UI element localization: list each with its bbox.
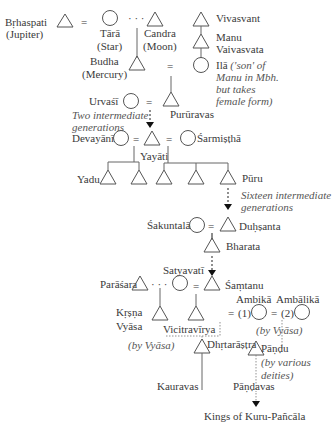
svg-text:Pūru: Pūru bbox=[242, 172, 263, 184]
svg-text:Śakuntalā: Śakuntalā bbox=[147, 219, 190, 231]
arrow-down-icon bbox=[146, 122, 154, 128]
male-triangle-icon bbox=[188, 306, 204, 320]
svg-text:(Star): (Star) bbox=[97, 40, 122, 53]
arrow-down-icon bbox=[224, 204, 232, 210]
parasara-node: Parāśara bbox=[100, 276, 148, 290]
male-triangle-icon bbox=[188, 170, 204, 184]
kauravas-label: Kauravas bbox=[157, 380, 199, 392]
svg-text:(Moon): (Moon) bbox=[143, 40, 177, 53]
female-circle-icon bbox=[295, 305, 310, 320]
tara-node: Tārā (Star) bbox=[97, 11, 122, 54]
annotation: Sixteen intermediate bbox=[241, 189, 331, 201]
krsna-vyasa-node: Kṛṣṇa Vyāsa bbox=[116, 306, 168, 332]
svg-text:Candra: Candra bbox=[144, 27, 176, 39]
marriage-sign: = bbox=[133, 133, 139, 145]
puru-node: Pūru bbox=[220, 170, 263, 184]
svg-text:Manu in Mbh.: Manu in Mbh. bbox=[215, 71, 279, 83]
male-triangle-icon bbox=[220, 217, 236, 231]
male-triangle-icon bbox=[163, 92, 179, 106]
svg-text:Pāṇḍu: Pāṇḍu bbox=[261, 342, 289, 355]
marriage-sign: = bbox=[167, 60, 173, 72]
pururavas-node: Purūravas bbox=[163, 92, 214, 120]
marriage-sign: = bbox=[193, 280, 199, 292]
kings-label: Kings of Kuru-Pañcāla bbox=[204, 410, 306, 422]
marriage-sign: = bbox=[228, 307, 234, 319]
svg-text:Ambikā: Ambikā bbox=[236, 293, 272, 305]
male-triangle-icon bbox=[147, 12, 163, 26]
svg-text:Vivasvant: Vivasvant bbox=[216, 12, 260, 24]
yadu-node: Yadu bbox=[77, 170, 116, 185]
male-triangle-icon bbox=[193, 34, 209, 48]
brhaspati-node: Bṛhaspati (Jupiter) bbox=[5, 14, 73, 41]
svg-text:female form): female form) bbox=[216, 95, 273, 108]
marriage-sign: = bbox=[271, 307, 277, 319]
annotation: generations bbox=[241, 201, 293, 213]
female-circle-icon bbox=[190, 218, 205, 233]
female-circle-icon bbox=[194, 58, 209, 73]
genealogy-diagram: Bṛhaspati (Jupiter) = Tārā (Star) · · · … bbox=[0, 0, 336, 428]
santanu-node: Śaṃtanu bbox=[204, 276, 264, 292]
sarmistha-node: Śarmiṣṭhā bbox=[181, 131, 242, 146]
svg-text:Dhṛtarāṣṭra: Dhṛtarāṣṭra bbox=[207, 338, 257, 351]
male-triangle-icon bbox=[100, 170, 116, 184]
svg-text:Yadu: Yadu bbox=[77, 173, 100, 185]
budha-node: Budha (Mercury) bbox=[82, 55, 145, 81]
male-triangle-icon bbox=[193, 12, 209, 26]
female-circle-icon bbox=[103, 11, 118, 26]
svg-text:Śarmiṣṭhā: Śarmiṣṭhā bbox=[197, 132, 241, 144]
dhrtarastra-node: Dhṛtarāṣṭra bbox=[194, 338, 257, 353]
svg-text:(Mercury): (Mercury) bbox=[82, 68, 128, 81]
male-triangle-icon bbox=[129, 56, 145, 70]
male-triangle-icon bbox=[156, 170, 172, 184]
svg-text:Purūravas: Purūravas bbox=[170, 108, 214, 120]
svg-text:Parāśara: Parāśara bbox=[100, 278, 137, 290]
svg-text:Urvaśī: Urvaśī bbox=[89, 95, 119, 107]
ila-node: Ilā ('son' of Manu in Mbh. but takes fem… bbox=[194, 58, 279, 109]
svg-text:Ambālikā: Ambālikā bbox=[276, 293, 319, 305]
female-circle-icon bbox=[124, 94, 139, 109]
female-circle-icon bbox=[181, 131, 196, 146]
arrow-down-icon bbox=[252, 401, 260, 407]
svg-text:(Jupiter): (Jupiter) bbox=[6, 28, 44, 41]
liaison-dots: · · · bbox=[151, 278, 168, 290]
bharata-node: Bharata bbox=[204, 238, 260, 252]
male-triangle-icon bbox=[144, 131, 160, 145]
liaison-dots: · · · bbox=[128, 12, 145, 24]
male-triangle-icon bbox=[131, 170, 147, 184]
annotation: (by various bbox=[261, 356, 311, 369]
svg-text:Manu: Manu bbox=[216, 31, 242, 43]
wife-order-label: (1) bbox=[238, 307, 251, 320]
male-triangle-icon bbox=[152, 306, 168, 320]
male-triangle-icon bbox=[220, 170, 236, 184]
female-circle-icon bbox=[252, 305, 267, 320]
male-triangle-icon bbox=[57, 14, 73, 27]
sakuntala-node: Śakuntalā bbox=[147, 218, 205, 233]
male-triangle-icon bbox=[204, 238, 220, 252]
svg-text:Vicitravīrya: Vicitravīrya bbox=[163, 323, 216, 335]
vivasvant-node: Vivasvant bbox=[193, 12, 260, 26]
satyavati-label: Satyavatī bbox=[163, 264, 205, 276]
marriage-sign: = bbox=[146, 96, 152, 108]
svg-text:Vaivasvata: Vaivasvata bbox=[216, 43, 264, 55]
marriage-sign: = bbox=[81, 16, 87, 28]
candra-node: Candra (Moon) bbox=[143, 12, 177, 53]
yayati-node: Yayāti bbox=[140, 131, 168, 162]
svg-text:Bharata: Bharata bbox=[226, 240, 260, 252]
svg-text:Kṛṣṇa: Kṛṣṇa bbox=[116, 306, 142, 319]
pandavas-label: Pāṇḍavas bbox=[233, 380, 275, 393]
satyavati-circle-icon bbox=[173, 276, 188, 291]
svg-text:Duḥṣanta: Duḥṣanta bbox=[239, 220, 281, 233]
duhsanta-node: Duḥṣanta bbox=[220, 217, 281, 233]
marriage-sign: = bbox=[166, 133, 172, 145]
annotation: Two intermediate bbox=[72, 109, 149, 121]
urvasi-node: Urvaśī bbox=[89, 94, 139, 109]
wife-order-label: (2) bbox=[281, 307, 294, 320]
svg-text:Yayāti: Yayāti bbox=[140, 150, 168, 162]
male-triangle-icon bbox=[204, 276, 220, 290]
svg-text:Śaṃtanu: Śaṃtanu bbox=[225, 279, 264, 292]
svg-text:Vyāsa: Vyāsa bbox=[116, 320, 142, 332]
svg-text:Tārā: Tārā bbox=[100, 27, 120, 39]
annotation: (by Vyāsa) bbox=[256, 324, 303, 337]
svg-text:Devayānī: Devayānī bbox=[72, 132, 115, 144]
manu-node: Manu Vaivasvata bbox=[193, 31, 264, 55]
